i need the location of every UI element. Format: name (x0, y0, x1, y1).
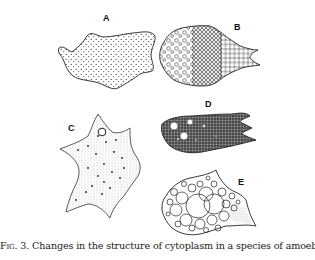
panel-label-b: B (234, 23, 241, 32)
caption-text: Changes in the structure of cytoplasm in… (29, 240, 315, 251)
panel-label-e: E (238, 178, 244, 187)
figure-number: Fig. 3. (0, 240, 29, 251)
amoeba-d-drawing (160, 112, 260, 154)
figure-caption: Fig. 3. Changes in the structure of cyto… (0, 240, 315, 251)
amoeba-e-drawing (160, 170, 260, 236)
panel-c: C (58, 112, 150, 220)
amoeba-a-drawing (55, 28, 160, 93)
panel-e: E (160, 170, 260, 236)
panel-a: A (55, 28, 160, 93)
panel-label-c: C (68, 124, 75, 133)
panel-label-d: D (205, 100, 212, 109)
figure: A (0, 0, 315, 260)
panel-b: B (158, 22, 268, 94)
panel-label-a: A (103, 14, 110, 23)
panel-d: D (160, 112, 260, 154)
amoeba-b-drawing (158, 22, 268, 94)
